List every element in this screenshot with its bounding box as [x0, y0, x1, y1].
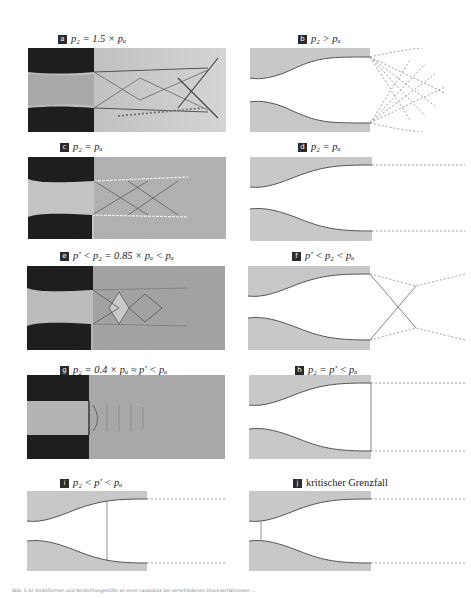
schlieren-photo-e	[27, 266, 225, 350]
panel-g-label: gp₂ = 0.4 × pₐ ≈ p′ < pₐ	[60, 364, 167, 375]
panel-i-label: ip₂ < p′ < pₐ	[60, 477, 122, 488]
nozzle-schematic-j	[249, 491, 465, 571]
panel-badge: d	[298, 143, 307, 152]
panel-j-label: jkritischer Grenzfall	[293, 477, 388, 488]
panel-badge: e	[60, 252, 69, 261]
panel-badge: j	[293, 479, 302, 488]
nozzle-schematic-d	[250, 157, 465, 241]
panel-c-label: cp₂ = pₐ	[60, 141, 103, 152]
panel-f-label: fp′ < p₂ < pₐ	[292, 250, 354, 261]
nozzle-schematic-i	[27, 491, 227, 571]
nozzle-schematic-b	[250, 48, 465, 132]
panel-badge: f	[292, 252, 301, 261]
schlieren-photo-c	[28, 157, 226, 239]
panel-h-label: hp₂ = p′ < pₐ	[295, 364, 357, 375]
panel-badge: i	[60, 479, 69, 488]
panel-badge: a	[58, 35, 67, 44]
schlieren-photo-a	[28, 48, 226, 132]
panel-b-label: bp₂ > pₐ	[298, 33, 341, 44]
panel-badge: h	[295, 366, 304, 375]
panel-a-label: ap₂ = 1.5 × pₐ	[58, 33, 126, 44]
panel-badge: c	[60, 143, 69, 152]
nozzle-schematic-h	[249, 375, 465, 459]
figure-caption: Abb. 5.32 Strahlformen und Verdichtungss…	[12, 588, 471, 593]
panel-e-label: ep′ < p₂ = 0.85 × pₐ < pₐ	[60, 250, 174, 261]
panel-d-label: dp₂ = pₐ	[298, 141, 341, 152]
panel-badge: b	[298, 35, 307, 44]
schlieren-photo-g	[27, 375, 225, 459]
nozzle-schematic-f	[248, 266, 465, 350]
panel-badge: g	[60, 366, 69, 375]
